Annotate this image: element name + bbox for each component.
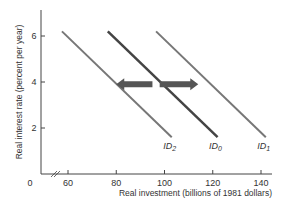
curve-label-id1: ID1 (257, 141, 270, 152)
y-tick-label: 6 (31, 31, 36, 41)
curve-label-id0: ID0 (209, 141, 222, 152)
y-tick-label: 2 (31, 123, 36, 133)
x-tick-label: 80 (111, 178, 121, 188)
y-tick-label: 4 (31, 77, 36, 87)
x-tick-label: 120 (205, 178, 220, 188)
x-axis-label: Real investment (billions of 1981 dollar… (119, 188, 272, 198)
investment-demand-chart: 246 6080100120140 0 ID2ID0ID1 Real inves… (0, 0, 287, 209)
x-ticks: 6080100120140 (63, 170, 269, 188)
x-tick-label: 60 (63, 178, 73, 188)
x-tick-label: 100 (157, 178, 172, 188)
y-axis-label: Real interest rate (percent per year) (14, 25, 24, 160)
axes (41, 10, 272, 174)
curve-label-id2: ID2 (163, 141, 176, 152)
origin-label: 0 (27, 178, 32, 188)
y-ticks: 246 (31, 31, 45, 133)
x-tick-label: 140 (253, 178, 268, 188)
demand-curves: ID2ID0ID1 (62, 31, 270, 152)
